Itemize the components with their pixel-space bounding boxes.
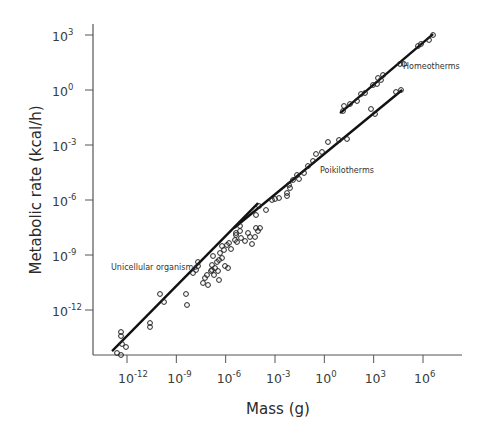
x-tick-label: 10-6 (217, 369, 241, 386)
y-tick-label: 103 (52, 27, 73, 44)
fit-line (234, 90, 402, 228)
y-axis-ticks: 10310010-310-610-910-12 (52, 27, 93, 319)
data-point (253, 235, 258, 240)
data-point (124, 345, 129, 350)
x-axis-title: Mass (g) (246, 400, 310, 418)
data-point (314, 152, 319, 157)
data-point (342, 104, 347, 109)
data-point (288, 186, 293, 191)
y-tick-label: 10-12 (52, 302, 82, 319)
data-point (320, 150, 325, 155)
data-point (211, 254, 216, 259)
data-point (264, 208, 269, 213)
y-tick-label: 10-9 (52, 247, 76, 264)
x-tick-label: 106 (414, 369, 435, 386)
axes (93, 24, 462, 355)
x-tick-label: 10-9 (167, 369, 191, 386)
data-point (248, 235, 253, 240)
data-point (184, 292, 189, 297)
data-point (369, 107, 374, 112)
scatter-chart: 10-1210-910-610-3100103106 10310010-310-… (0, 0, 482, 439)
data-point (326, 140, 331, 145)
data-point (250, 242, 255, 247)
y-tick-label: 100 (52, 82, 73, 99)
data-point (243, 239, 248, 244)
data-point (206, 283, 211, 288)
data-point (210, 263, 215, 268)
data-point (285, 191, 290, 196)
x-tick-label: 10-3 (266, 369, 290, 386)
annotation-unicellular: Unicellular organisms (111, 263, 197, 272)
data-point (162, 300, 167, 305)
data-point (229, 247, 234, 252)
data-point (158, 292, 163, 297)
data-point (220, 244, 225, 249)
y-tick-label: 10-3 (52, 137, 76, 154)
x-tick-label: 10-12 (118, 369, 148, 386)
x-axis-ticks: 10-1210-910-610-3100103106 (118, 355, 435, 386)
y-axis-title: Metabolic rate (kcal/h) (27, 105, 45, 274)
x-tick-label: 103 (365, 369, 386, 386)
regression-lines (112, 34, 433, 351)
data-point (254, 213, 259, 218)
data-point (201, 281, 206, 286)
data-point (345, 137, 350, 142)
data-point (185, 303, 190, 308)
y-tick-label: 10-6 (52, 192, 76, 209)
annotation-poikilotherms: Poikilotherms (320, 166, 374, 175)
annotation-homeotherms: Homeotherms (403, 62, 460, 71)
data-point (216, 269, 221, 274)
x-tick-label: 100 (315, 369, 336, 386)
data-point (297, 177, 302, 182)
data-point (212, 273, 217, 278)
data-point (217, 278, 222, 283)
